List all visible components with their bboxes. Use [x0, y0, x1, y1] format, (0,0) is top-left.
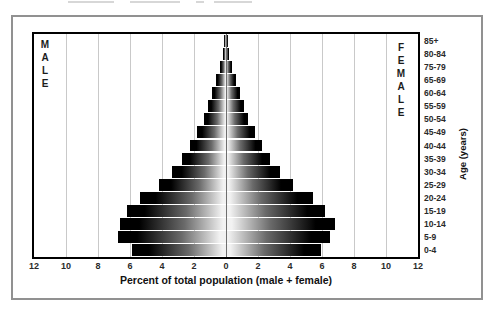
- age-label-75-79: 75-79: [424, 62, 464, 72]
- age-label-20-24: 20-24: [424, 193, 464, 203]
- x-tick-label: 10: [55, 261, 77, 271]
- x-tick-label: 2: [183, 261, 205, 271]
- age-label-60-64: 60-64: [424, 88, 464, 98]
- x-tick-label: 6: [311, 261, 333, 271]
- x-tick-label: 4: [151, 261, 173, 271]
- gridline: [66, 34, 67, 257]
- population-pyramid-figure: MALE FEMALE 85+80-8475-7965-6960-6455-59…: [0, 0, 491, 310]
- side-label-letter: E: [39, 77, 51, 90]
- age-label-5-9: 5-9: [424, 232, 464, 242]
- gridline: [386, 34, 387, 257]
- x-tick-label: 12: [23, 261, 45, 271]
- x-tick-label: 12: [407, 261, 429, 271]
- side-label-letter: E: [395, 106, 407, 119]
- plot-area: [32, 32, 420, 259]
- side-label-letter: L: [395, 93, 407, 106]
- pyramid-bar-10-14: [120, 218, 334, 230]
- side-label-letter: L: [39, 64, 51, 77]
- x-axis-title: Percent of total population (male + fema…: [33, 274, 419, 286]
- x-tick-label: 8: [343, 261, 365, 271]
- side-label-letter: F: [395, 41, 407, 54]
- age-label-25-29: 25-29: [424, 180, 464, 190]
- pyramid-bar-5-9: [118, 231, 330, 243]
- female-side-label: FEMALE: [395, 41, 407, 119]
- age-label-0-4: 0-4: [424, 245, 464, 255]
- side-label-letter: E: [395, 54, 407, 67]
- age-label-85+: 85+: [424, 36, 464, 46]
- age-label-65-69: 65-69: [424, 75, 464, 85]
- x-tick-label: 8: [87, 261, 109, 271]
- age-label-80-84: 80-84: [424, 49, 464, 59]
- side-label-letter: A: [39, 51, 51, 64]
- gridline: [98, 34, 99, 257]
- age-label-15-19: 15-19: [424, 206, 464, 216]
- age-label-10-14: 10-14: [424, 219, 464, 229]
- x-tick-label: 0: [215, 261, 237, 271]
- age-label-50-54: 50-54: [424, 114, 464, 124]
- x-tick-label: 6: [119, 261, 141, 271]
- side-label-letter: M: [395, 67, 407, 80]
- gridline: [354, 34, 355, 257]
- side-label-letter: A: [395, 80, 407, 93]
- x-tick-label: 2: [247, 261, 269, 271]
- x-tick-label: 10: [375, 261, 397, 271]
- age-label-55-59: 55-59: [424, 101, 464, 111]
- center-axis-line: [226, 34, 227, 257]
- side-label-letter: M: [39, 38, 51, 51]
- male-side-label: MALE: [39, 38, 51, 90]
- x-tick-label: 4: [279, 261, 301, 271]
